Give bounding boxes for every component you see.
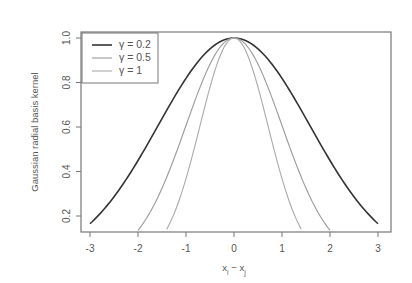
x-tick-label: -2	[134, 243, 143, 254]
x-tick-label: 1	[279, 243, 285, 254]
kernel-chart: -3-2-10123 0.20.40.60.81.0 Gaussian radi…	[0, 0, 412, 283]
x-tick-label: 0	[231, 243, 237, 254]
y-axis: 0.20.40.60.81.0	[61, 31, 81, 223]
y-tick-label: 0.8	[61, 75, 72, 89]
x-axis-label: xi − xj	[222, 262, 246, 277]
y-axis-label: Gaussian radial basis kernel	[29, 72, 40, 191]
curve-gamma-0-5	[138, 38, 330, 230]
y-tick-label: 0.2	[61, 209, 72, 223]
y-tick-label: 1.0	[61, 31, 72, 45]
curve-gamma-1	[167, 38, 301, 229]
legend-label: γ = 0.5	[119, 51, 151, 63]
x-tick-label: 3	[375, 243, 381, 254]
y-tick-label: 0.6	[61, 120, 72, 134]
y-tick-label: 0.4	[61, 164, 72, 178]
legend-label: γ = 1	[119, 64, 142, 76]
x-tick-label: -1	[182, 243, 191, 254]
legend-label: γ = 0.2	[119, 38, 151, 50]
x-tick-label: -3	[86, 243, 95, 254]
x-tick-label: 2	[327, 243, 333, 254]
legend: γ = 0.2 γ = 0.5 γ = 1	[82, 33, 158, 83]
x-axis: -3-2-10123	[86, 232, 382, 254]
